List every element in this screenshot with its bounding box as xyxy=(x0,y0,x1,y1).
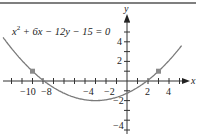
marked-point xyxy=(30,69,35,74)
x-axis-label: x xyxy=(191,76,195,86)
y-tick-label: −2 xyxy=(113,96,124,106)
x-tick-label: −10 xyxy=(20,87,36,97)
marked-point xyxy=(156,69,161,74)
y-axis-arrow-icon xyxy=(124,14,130,22)
x-tick-label: −4 xyxy=(83,87,94,97)
x-tick-label: −8 xyxy=(41,87,52,97)
x-tick-label: 4 xyxy=(166,87,171,97)
y-tick-label: 2 xyxy=(117,56,122,66)
x-tick-label: 2 xyxy=(145,87,150,97)
equation-label: x2 + 6x − 12y − 15 = 0 xyxy=(12,24,110,37)
y-tick-label: 4 xyxy=(117,37,122,47)
y-axis-label: y xyxy=(124,4,128,14)
y-tick-label: −4 xyxy=(113,121,124,131)
x-axis-arrow-icon xyxy=(182,78,190,84)
parabola-plot xyxy=(0,0,200,136)
marked-points xyxy=(30,69,161,74)
